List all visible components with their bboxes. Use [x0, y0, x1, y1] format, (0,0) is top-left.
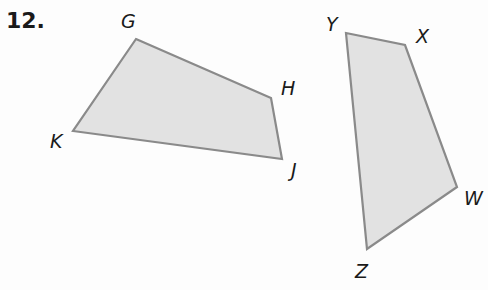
- quadrilateral-GHJK: [73, 39, 282, 159]
- diagram-svg: 12. G H J K Y X W Z: [0, 0, 488, 290]
- quadrilateral-YXWZ: [346, 33, 457, 249]
- figure-canvas: 12. G H J K Y X W Z: [0, 0, 488, 290]
- vertex-label-X: X: [415, 25, 430, 47]
- vertex-label-H: H: [281, 77, 295, 99]
- vertex-label-J: J: [287, 159, 297, 181]
- vertex-label-Z: Z: [354, 260, 369, 282]
- vertex-label-G: G: [121, 10, 136, 32]
- vertex-label-W: W: [464, 187, 484, 209]
- vertex-label-Y: Y: [326, 13, 339, 35]
- vertex-label-K: K: [50, 130, 64, 152]
- problem-number: 12.: [6, 8, 45, 33]
